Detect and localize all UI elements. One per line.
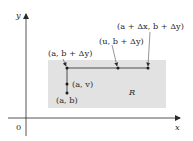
point-a-b-plus-dy <box>66 67 69 70</box>
label-a-plus-dx-b-plus-dy: (a + Δx, b + Δy) <box>117 21 184 31</box>
region-label: R <box>128 87 135 97</box>
x-axis-label: x <box>175 122 180 132</box>
label-a-b: (a, b) <box>56 95 78 105</box>
label-u-b-plus-dy: (u, b + Δy) <box>99 36 144 46</box>
label-a-b-plus-dy: (a, b + Δy) <box>48 48 92 58</box>
diagram-canvas: y x 0 R (a, b + Δy) (u, b + Δy) (a + Δx,… <box>0 0 193 141</box>
origin-label: 0 <box>16 122 21 132</box>
label-a-v: (a, v) <box>72 79 93 89</box>
y-axis-label: y <box>15 10 21 20</box>
point-a-plus-dx-b-plus-dy <box>147 67 150 70</box>
point-u-b-plus-dy <box>117 67 120 70</box>
point-a-v <box>66 83 69 86</box>
